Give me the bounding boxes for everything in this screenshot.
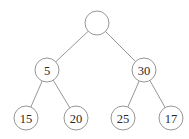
node-root	[85, 11, 109, 35]
nodes: 5 30 15 20 25 17	[14, 11, 183, 130]
node-circle	[85, 11, 109, 35]
tree-diagram: 5 30 15 20 25 17	[0, 0, 189, 139]
node-label: 30	[138, 64, 151, 78]
node-5: 5	[35, 58, 59, 82]
node-label: 17	[165, 112, 178, 126]
node-label: 15	[20, 112, 33, 126]
node-label: 25	[117, 112, 130, 126]
node-label: 20	[70, 112, 83, 126]
node-20: 20	[64, 106, 88, 130]
node-label: 5	[44, 64, 50, 78]
node-17: 17	[159, 106, 183, 130]
node-15: 15	[14, 106, 38, 130]
node-25: 25	[111, 106, 135, 130]
node-30: 30	[132, 58, 156, 82]
